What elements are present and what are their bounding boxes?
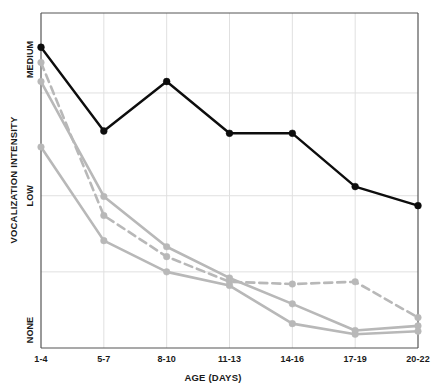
data-point-series-gray-solid-upper-5-7 [101, 193, 108, 200]
vocalization-intensity-line-chart: MEDIUMLOWNONE 1-45-78-1011-1314-1617-192… [0, 0, 437, 385]
data-point-series-gray-dashed-14-16 [289, 281, 296, 288]
data-point-series-gray-dashed-17-19 [352, 278, 359, 285]
data-point-series-gray-dashed-1-4 [38, 59, 45, 66]
data-point-series-gray-solid-lower-8-10 [163, 269, 170, 276]
data-point-series-gray-solid-lower-14-16 [289, 320, 296, 327]
x-tick-label-11-13: 11-13 [218, 354, 241, 364]
data-point-series-gray-dashed-20-22 [415, 314, 422, 321]
x-tick-label-1-4: 1-4 [34, 354, 47, 364]
x-tick-label-17-19: 17-19 [343, 354, 367, 364]
y-tick-label-none: NONE [25, 317, 35, 343]
data-point-series-gray-solid-upper-1-4 [38, 78, 45, 85]
data-point-series-gray-solid-upper-17-19 [352, 327, 359, 334]
data-point-series-gray-solid-lower-5-7 [101, 237, 108, 244]
data-point-series-gray-dashed-5-7 [101, 212, 108, 219]
x-tick-labels: 1-45-78-1011-1314-1617-1920-22 [34, 354, 429, 364]
data-point-series-black-20-22 [415, 202, 422, 209]
x-axis-title: AGE (DAYS) [184, 372, 241, 383]
x-tick-label-5-7: 5-7 [97, 354, 110, 364]
data-point-series-gray-solid-upper-14-16 [289, 301, 296, 308]
data-point-series-black-5-7 [100, 128, 107, 135]
y-tick-labels: MEDIUMLOWNONE [25, 41, 35, 343]
y-axis-title: VOCALIZATION INTENSITY [8, 116, 19, 244]
x-tick-label-14-16: 14-16 [281, 354, 305, 364]
data-point-series-black-17-19 [352, 183, 359, 190]
data-point-series-gray-dashed-8-10 [163, 253, 170, 260]
data-point-series-gray-solid-upper-8-10 [163, 243, 170, 250]
data-point-series-black-14-16 [289, 130, 296, 137]
data-point-series-black-11-13 [226, 130, 233, 137]
data-point-series-gray-solid-upper-20-22 [415, 323, 422, 330]
data-point-series-gray-dashed-11-13 [226, 278, 233, 285]
chart-figure: MEDIUMLOWNONE 1-45-78-1011-1314-1617-192… [0, 0, 437, 385]
x-tick-label-8-10: 8-10 [157, 354, 175, 364]
y-tick-label-medium: MEDIUM [25, 41, 35, 78]
y-tick-label-low: LOW [25, 185, 35, 207]
x-tick-label-20-22: 20-22 [406, 354, 430, 364]
data-point-series-black-8-10 [163, 78, 170, 85]
data-point-series-black-1-4 [38, 44, 45, 51]
data-point-series-gray-solid-lower-1-4 [38, 144, 45, 151]
